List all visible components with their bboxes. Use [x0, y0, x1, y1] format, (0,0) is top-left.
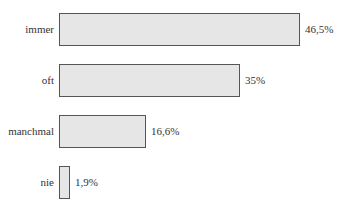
value-label: 16,6%	[151, 115, 179, 148]
bar-row-oft: oft 35%	[0, 64, 348, 97]
bar-row-nie: nie 1,9%	[0, 166, 348, 199]
category-label: immer	[25, 13, 54, 46]
bar-row-immer: immer 46,5%	[0, 13, 348, 46]
category-label: oft	[42, 64, 54, 97]
value-label: 46,5%	[305, 13, 333, 46]
bar-row-manchmal: manchmal 16,6%	[0, 115, 348, 148]
value-label: 35%	[245, 64, 265, 97]
category-label: manchmal	[8, 115, 54, 148]
value-label: 1,9%	[75, 166, 98, 199]
bar	[59, 13, 300, 46]
bar	[59, 115, 146, 148]
bar	[59, 166, 70, 199]
category-label: nie	[41, 166, 54, 199]
bar	[59, 64, 240, 97]
